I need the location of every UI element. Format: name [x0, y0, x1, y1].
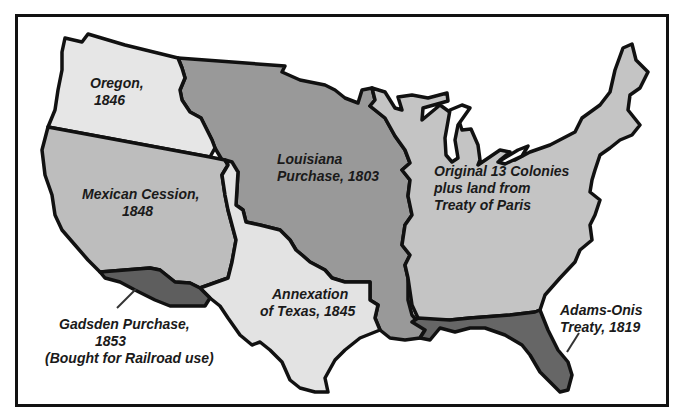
- label-louisiana: Louisiana Purchase, 1803: [277, 151, 379, 185]
- label-mexican-cession: Mexican Cession, 1848: [82, 186, 200, 220]
- gadsden-pointer: [117, 289, 136, 308]
- label-oregon: Oregon, 1846: [90, 75, 144, 109]
- label-texas: Annexation of Texas, 1845: [260, 286, 355, 320]
- region-adams-onis: [412, 310, 572, 392]
- label-original-13-colonies: Original 13 Colonies plus land from Trea…: [434, 163, 569, 214]
- label-adams-onis-treaty: Adams-Onis Treaty, 1819: [560, 302, 642, 336]
- label-gadsden-purchase: Gadsden Purchase, 1853 (Bought for Railr…: [45, 316, 214, 367]
